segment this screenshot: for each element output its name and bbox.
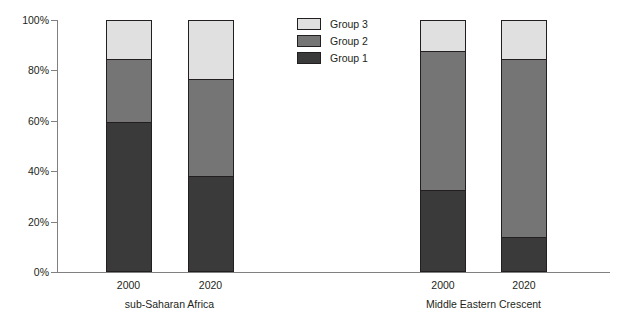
y-axis-tick-label: 40% — [3, 166, 49, 177]
y-axis-tick — [51, 171, 57, 172]
y-axis-tick — [51, 272, 57, 273]
bar-segment — [189, 79, 233, 177]
y-axis-label-slot: 20% — [0, 222, 49, 223]
y-axis-tick-label: 80% — [3, 65, 49, 76]
bar-segment — [107, 21, 151, 59]
y-axis-label-slot: 60% — [0, 121, 49, 122]
y-axis-tick — [51, 70, 57, 71]
bar-segment — [421, 21, 465, 51]
bar-segment — [502, 21, 546, 59]
x-axis-group-label: Middle Eastern Crescent — [426, 299, 541, 310]
legend-swatch-icon — [297, 18, 321, 30]
y-axis-tick-label: 60% — [3, 116, 49, 127]
bar-segment — [107, 59, 151, 123]
bar-segment — [502, 237, 546, 271]
y-axis-tick — [51, 20, 57, 21]
x-axis-tick-label: 2020 — [199, 280, 222, 291]
y-axis-label-slot: 0% — [0, 272, 49, 273]
y-axis-label-slot: 80% — [0, 70, 49, 71]
bar — [420, 20, 466, 272]
bar-segment — [421, 190, 465, 271]
x-axis-line — [57, 272, 610, 273]
x-axis-tick-label: 2000 — [431, 280, 454, 291]
y-axis-tick-label: 0% — [3, 267, 49, 278]
bar-segment — [502, 59, 546, 238]
bar-segment — [107, 122, 151, 271]
stacked-bar-chart: 0%20%40%60%80%100% 2000202020002020sub-S… — [0, 0, 627, 333]
bar — [106, 20, 152, 272]
x-axis-tick-label: 2020 — [512, 280, 535, 291]
bar — [188, 20, 234, 272]
legend-item-label: Group 3 — [330, 19, 368, 30]
y-axis-label-slot: 40% — [0, 171, 49, 172]
bar-segment — [189, 176, 233, 271]
legend-item[interactable]: Group 3 — [297, 17, 368, 31]
y-axis-line — [57, 20, 58, 273]
bar-segment — [421, 51, 465, 190]
x-axis-tick-label: 2000 — [117, 280, 140, 291]
legend-item[interactable]: Group 1 — [297, 51, 368, 65]
legend-swatch-icon — [297, 35, 321, 47]
y-axis-label-slot: 100% — [0, 20, 49, 21]
legend-item[interactable]: Group 2 — [297, 34, 368, 48]
bar — [501, 20, 547, 272]
chart-legend: Group 3Group 2Group 1 — [297, 17, 368, 68]
bar-segment — [189, 21, 233, 79]
legend-swatch-icon — [297, 52, 321, 64]
legend-item-label: Group 1 — [330, 53, 368, 64]
legend-item-label: Group 2 — [330, 36, 368, 47]
y-axis-tick-label: 20% — [3, 216, 49, 227]
y-axis-tick — [51, 121, 57, 122]
y-axis-tick — [51, 222, 57, 223]
x-axis-group-label: sub-Saharan Africa — [125, 299, 214, 310]
y-axis-tick-label: 100% — [3, 15, 49, 26]
